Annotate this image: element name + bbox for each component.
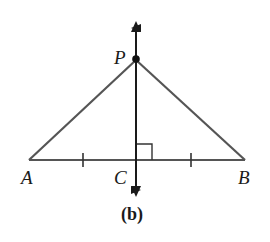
point-p-dot — [132, 55, 140, 63]
figure-caption: (b) — [121, 205, 143, 223]
label-a: A — [21, 168, 33, 187]
segment-pa — [29, 60, 136, 160]
label-p: P — [114, 48, 126, 67]
right-angle-mark — [136, 144, 152, 160]
arrow-down-icon — [131, 186, 141, 197]
label-b: B — [238, 168, 250, 187]
arrow-up-icon — [131, 21, 141, 32]
label-c: C — [114, 168, 127, 187]
